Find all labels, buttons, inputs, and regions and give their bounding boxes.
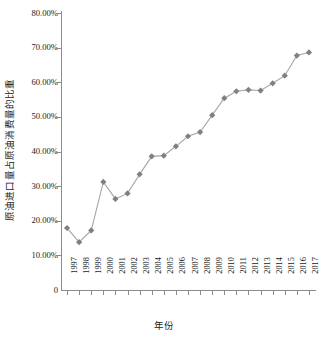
data-point-marker <box>306 49 312 55</box>
data-point-marker <box>149 153 155 159</box>
data-point-marker <box>294 52 300 58</box>
data-point-marker <box>137 171 143 177</box>
series-plot <box>0 0 327 340</box>
data-point-marker <box>257 87 263 93</box>
line-chart: 原油进口量占原油消费量的比重 010.00%20.00%30.00%40.00%… <box>0 0 327 340</box>
data-point-marker <box>124 190 130 196</box>
data-point-marker <box>270 80 276 86</box>
x-axis-title: 年份 <box>0 322 327 332</box>
series-markers <box>64 49 312 245</box>
data-point-marker <box>245 87 251 93</box>
data-point-marker <box>282 73 288 79</box>
data-point-marker <box>233 88 239 94</box>
